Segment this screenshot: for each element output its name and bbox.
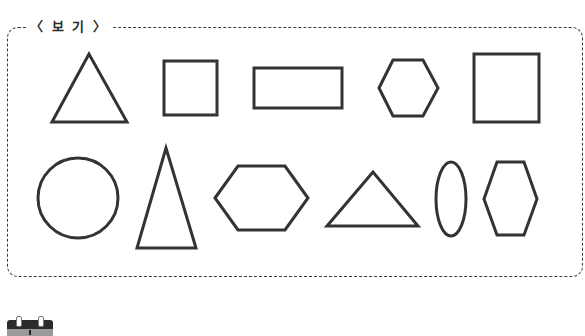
ellipse-shape	[436, 162, 466, 236]
shapes-canvas	[0, 0, 585, 336]
calendar-icon-mark	[29, 330, 31, 335]
tall-triangle-shape	[137, 148, 196, 248]
equilateral-triangle-shape	[52, 54, 127, 122]
regular-hexagon-shape	[379, 60, 438, 116]
calendar-ring-left	[16, 316, 22, 327]
flat-triangle-shape	[327, 172, 418, 226]
rectangle-shape	[254, 68, 342, 108]
large-square-shape	[474, 54, 539, 122]
tall-hexagon-shape	[484, 162, 537, 235]
calendar-ring-right	[38, 316, 44, 327]
calendar-icon-header	[7, 320, 53, 329]
circle-shape	[38, 158, 118, 238]
wide-hexagon-shape	[215, 166, 308, 230]
small-square-shape	[164, 61, 217, 115]
calendar-icon	[7, 316, 53, 336]
